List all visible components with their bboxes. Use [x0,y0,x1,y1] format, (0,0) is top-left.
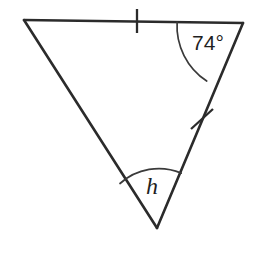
geometry-diagram: 74° h [0,0,278,254]
triangle-side-right [157,23,243,228]
tick-mark-right-side [191,109,213,129]
triangle-figure: 74° h [0,0,278,254]
angle-label-h: h [146,173,158,199]
triangle-side-left [24,20,157,228]
triangle-side-top [24,20,243,23]
angle-label-74-degrees: 74° [192,31,224,54]
